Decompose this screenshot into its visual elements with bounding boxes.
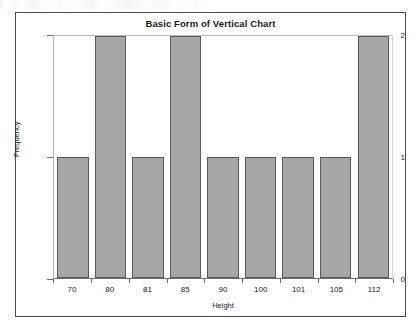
bar	[320, 157, 352, 278]
scan-noise-artifact	[0, 0, 419, 9]
bar	[358, 36, 390, 278]
bar-slot	[167, 36, 205, 278]
bar-slot	[242, 36, 280, 278]
bar-slot	[204, 36, 242, 278]
bar-slot	[129, 36, 167, 278]
bar	[170, 36, 202, 278]
bar-slot	[92, 36, 130, 278]
chart-screenshot: Basic Form of Vertical Chart 2 1 0 Frequ…	[0, 0, 419, 331]
y-axis-title: Frequency	[12, 122, 21, 157]
x-axis-title: Height	[53, 301, 393, 310]
bar-slot	[54, 36, 92, 278]
x-tick	[129, 279, 130, 283]
x-tick	[355, 279, 356, 283]
figure-frame: Basic Form of Vertical Chart 2 1 0 Frequ…	[15, 12, 406, 317]
bar	[95, 36, 127, 278]
x-tick	[242, 279, 243, 283]
chart-title: Basic Form of Vertical Chart	[16, 18, 405, 29]
bar	[57, 157, 89, 278]
x-tick	[53, 279, 54, 283]
x-tick-label: 80	[91, 285, 129, 294]
bar	[132, 157, 164, 278]
bar-slot	[317, 36, 355, 278]
x-tick-label: 85	[166, 285, 204, 294]
x-axis-tick-labels: 70 80 81 85 90 100 101 105 112	[53, 285, 393, 294]
bar-slot	[355, 36, 393, 278]
x-tick-label: 112	[355, 285, 393, 294]
x-tick-label: 100	[242, 285, 280, 294]
x-tick	[204, 279, 205, 283]
x-tick-label: 81	[129, 285, 167, 294]
x-tick	[91, 279, 92, 283]
x-tick	[318, 279, 319, 283]
x-tick	[280, 279, 281, 283]
x-tick	[393, 279, 394, 283]
bar-series	[54, 36, 392, 278]
plot-area	[53, 35, 393, 279]
bar-slot	[279, 36, 317, 278]
bar	[207, 157, 239, 278]
x-tick-label: 101	[280, 285, 318, 294]
x-tick	[167, 279, 168, 283]
bar	[245, 157, 277, 278]
x-tick-label: 90	[204, 285, 242, 294]
bar	[282, 157, 314, 278]
x-tick-label: 105	[317, 285, 355, 294]
x-tick-label: 70	[53, 285, 91, 294]
